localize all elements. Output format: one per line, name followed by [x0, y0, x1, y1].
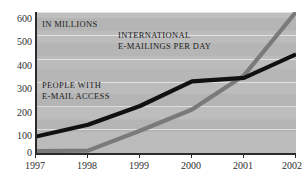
y-axis-line: [35, 12, 37, 154]
y-tick-label-600: 600: [2, 14, 32, 24]
x-tick-1997: [35, 153, 36, 158]
y-tick-label-400: 400: [2, 61, 32, 71]
x-tick-2001: [243, 153, 244, 158]
x-tick-2002: [295, 153, 296, 158]
annotation-people-with: PEOPLE WITH: [42, 80, 101, 91]
chart-container: IN MILLIONS INTERNATIONAL E-MAILINGS PER…: [0, 0, 308, 184]
x-tick-1998: [87, 153, 88, 158]
y-tick-label-200: 200: [2, 108, 32, 118]
annotation-international: INTERNATIONAL: [118, 30, 191, 41]
x-tick-label-2000: 2000: [171, 160, 211, 171]
y-tick-label-100: 100: [2, 131, 32, 141]
y-tick-label-0: 0: [2, 148, 32, 158]
y-tick-label-300: 300: [2, 84, 32, 94]
annotation-emailings-per-day: E-MAILINGS PER DAY: [118, 41, 211, 52]
x-tick-label-1997: 1997: [15, 160, 55, 171]
x-tick-label-1999: 1999: [119, 160, 159, 171]
plot-area: IN MILLIONS INTERNATIONAL E-MAILINGS PER…: [36, 12, 296, 153]
annotation-email-access: E-MAIL ACCESS: [42, 91, 110, 102]
y-tick-label-500: 500: [2, 37, 32, 47]
x-tick-label-2002: 2002: [272, 160, 308, 171]
annotation-in-millions: IN MILLIONS: [42, 19, 98, 30]
x-tick-label-1998: 1998: [67, 160, 107, 171]
x-tick-label-2001: 2001: [223, 160, 263, 171]
x-axis-line: [35, 153, 296, 155]
y-axis-labels: 600 500 400 300 200 100 0: [0, 0, 32, 184]
x-tick-1999: [139, 153, 140, 158]
x-tick-2000: [191, 153, 192, 158]
